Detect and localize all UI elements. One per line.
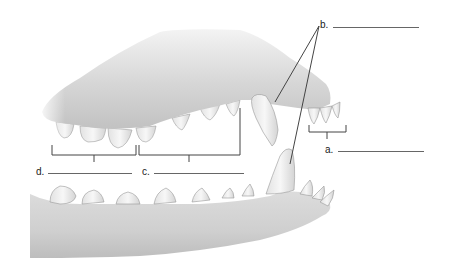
upper-jaw bbox=[40, 29, 340, 148]
answer-blank-c[interactable] bbox=[154, 173, 244, 174]
lower-canine bbox=[266, 149, 295, 194]
jaw-diagram: b. a. d. c. bbox=[0, 0, 450, 274]
answer-blank-b[interactable] bbox=[333, 27, 419, 28]
answer-blank-a[interactable] bbox=[338, 151, 424, 152]
bracket-d bbox=[52, 145, 136, 155]
lower-jaw bbox=[20, 149, 334, 265]
answer-blank-d[interactable] bbox=[48, 173, 132, 174]
label-c: c. bbox=[142, 167, 150, 177]
label-b: b. bbox=[320, 20, 328, 30]
lower-molars bbox=[50, 186, 140, 204]
label-a: a. bbox=[325, 145, 333, 155]
label-d: d. bbox=[36, 167, 44, 177]
jaw-illustration bbox=[0, 0, 450, 274]
bracket-a bbox=[309, 125, 346, 132]
